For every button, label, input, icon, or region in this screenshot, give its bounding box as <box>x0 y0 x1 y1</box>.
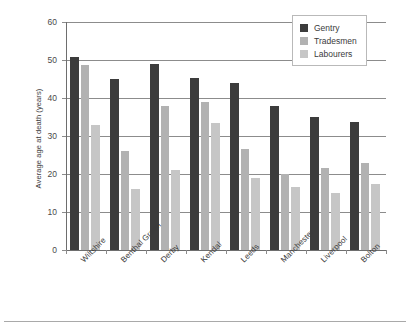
x-tick <box>66 250 67 254</box>
bar-tradesmen-leeds <box>241 149 250 250</box>
bar-tradesmen-kendal <box>201 102 210 250</box>
bar-tradesmen-bolton <box>361 163 370 250</box>
x-tick <box>226 250 227 254</box>
x-tick <box>186 250 187 254</box>
bar-labourers-leeds <box>251 178 260 250</box>
bar-labourers-bolton <box>371 184 380 251</box>
bar-gentry-benthal-green <box>110 79 119 250</box>
bar-labourers-wiltshire <box>91 125 100 250</box>
y-axis-line <box>66 22 67 250</box>
bar-labourers-derby <box>171 170 180 250</box>
y-tick-label: 60 <box>48 17 57 27</box>
y-tick-label: 20 <box>48 169 57 179</box>
legend-item-gentry[interactable]: Gentry <box>300 21 357 34</box>
x-tick <box>266 250 267 254</box>
y-tick-label: 0 <box>52 245 57 255</box>
bar-tradesmen-derby <box>161 106 170 250</box>
bar-gentry-bolton <box>350 122 359 250</box>
bar-gentry-wiltshire <box>70 57 79 250</box>
bar-gentry-manchester <box>270 106 279 250</box>
y-tick-label: 50 <box>48 55 57 65</box>
x-tick <box>106 250 107 254</box>
bar-group <box>190 22 220 250</box>
bar-tradesmen-manchester <box>281 174 290 250</box>
bar-tradesmen-benthal-green <box>121 151 130 250</box>
legend-swatch-icon <box>300 50 308 58</box>
legend-label: Labourers <box>314 49 352 59</box>
bar-tradesmen-liverpool <box>321 168 330 250</box>
legend-item-labourers[interactable]: Labourers <box>300 47 357 60</box>
x-tick <box>346 250 347 254</box>
y-tick-label: 30 <box>48 131 57 141</box>
legend-swatch-icon <box>300 24 308 32</box>
bar-gentry-kendal <box>190 78 199 250</box>
bottom-divider <box>4 321 406 322</box>
x-tick <box>386 250 387 254</box>
y-axis-title: Average age at death (years) <box>34 39 43 239</box>
bar-group <box>150 22 180 250</box>
y-tick-label: 10 <box>48 207 57 217</box>
legend-label: Tradesmen <box>314 36 357 46</box>
y-tick-label: 40 <box>48 93 57 103</box>
bar-group <box>70 22 100 250</box>
bar-tradesmen-wiltshire <box>81 65 90 250</box>
x-tick <box>306 250 307 254</box>
bar-chart: Average age at death (years) 01020304050… <box>0 0 410 333</box>
bar-group <box>230 22 260 250</box>
legend-swatch-icon <box>300 37 308 45</box>
x-tick <box>146 250 147 254</box>
bar-group <box>110 22 140 250</box>
legend-item-tradesmen[interactable]: Tradesmen <box>300 34 357 47</box>
bar-labourers-kendal <box>211 123 220 250</box>
legend: GentryTradesmenLabourers <box>292 15 367 66</box>
legend-label: Gentry <box>314 23 340 33</box>
bar-gentry-leeds <box>230 83 239 250</box>
